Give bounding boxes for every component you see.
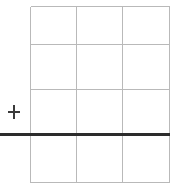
figure-canvas xyxy=(0,0,182,194)
figure-background xyxy=(0,0,182,194)
grid-diagram-svg xyxy=(0,0,182,194)
